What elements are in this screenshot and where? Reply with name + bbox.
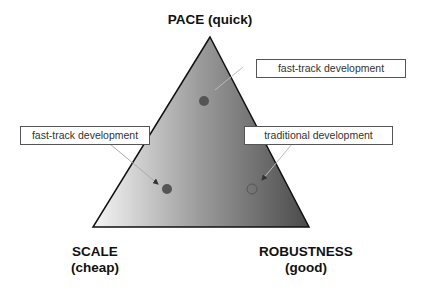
label-pace-text: PACE (quick) (168, 12, 253, 27)
label-robustness: ROBUSTNESS (good) (256, 244, 356, 276)
label-scale: SCALE (cheap) (55, 244, 135, 276)
label-pace: PACE (quick) (150, 12, 270, 28)
label-scale-line2: (cheap) (55, 260, 135, 276)
callout-fast-track-top: fast-track development (256, 59, 406, 78)
label-robustness-line1: ROBUSTNESS (256, 244, 356, 260)
dot-fast-track-left (162, 184, 172, 194)
callout-traditional: traditional development (244, 126, 393, 145)
label-robustness-line2: (good) (256, 260, 356, 276)
dot-fast-track-top (199, 96, 209, 106)
callout-fast-track-left: fast-track development (20, 126, 150, 145)
label-scale-line1: SCALE (55, 244, 135, 260)
